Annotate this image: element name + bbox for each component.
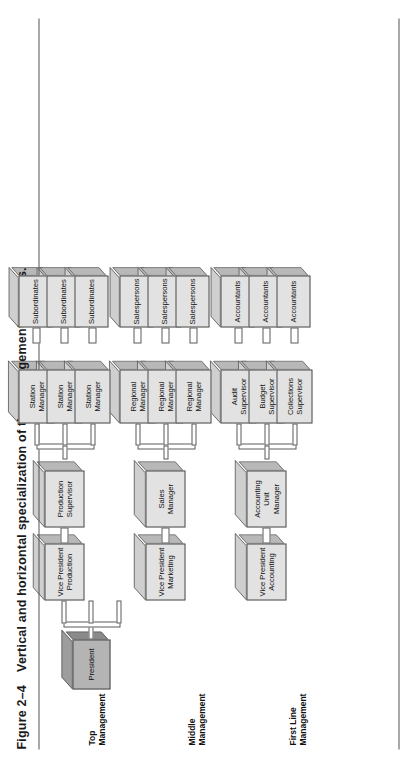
connector-vp-acct-to-accounting-unit-manager [262,527,270,543]
connector-acct-bus-stub [264,445,269,459]
connector-acct-to-collections [292,423,297,445]
connector-budget-to-accountants [262,327,270,343]
connector-bus-to-vp-mktg [88,600,93,623]
tier-label-first-line-management: First Line Management [287,693,307,745]
connector-sales-to-regional-2 [163,423,168,445]
connector-vp-mktg-to-sales-manager [161,527,169,543]
node-accounting-unit-manager[interactable]: Accounting Unit Manager [246,470,286,527]
connector-bus-to-vp-acct [116,600,121,623]
node-collections-supervisor-label: Collections Supervisor [285,377,303,414]
connector-prod-to-station-2 [62,423,67,445]
node-station-manager-3[interactable]: Station Manager [74,369,110,423]
connector-station-1-to-subordinates [32,327,40,343]
connector-bus-to-vp-prod [61,600,66,623]
node-accountants-1-label: Accountants [232,280,241,322]
connector-acct-to-budget [264,423,269,445]
node-salespersons-1-label: Salespersons [131,278,140,324]
connector-sales-to-regional-3 [191,423,196,445]
node-accounting-unit-manager-label: Accounting Unit Manager [252,472,279,525]
node-vp-accounting[interactable]: Vice President Accounting [246,543,286,600]
connector-station-3-to-subordinates [88,327,96,343]
connector-vp-prod-to-prod-supervisor [60,527,68,543]
node-station-manager-1-label: Station Manager [27,381,45,411]
node-subordinates-3[interactable]: Subordinates [74,275,108,327]
connector-prod-to-station-3 [90,423,95,445]
node-sales-manager[interactable]: Sales Manager [145,470,185,527]
node-station-manager-2-label: Station Manager [55,381,73,411]
node-subordinates-1-label: Subordinates [30,279,39,324]
node-president-label: President [86,648,95,680]
node-collections-supervisor[interactable]: Collections Supervisor [276,369,312,423]
connector-prod-to-station-1 [34,423,39,445]
node-production-supervisor-label: Production Supervisor [55,480,73,516]
node-president[interactable]: President [72,639,110,689]
node-vp-marketing-label: Vice President Marketing [156,547,174,596]
connector-regional-2-to-salespersons [161,327,169,343]
node-budget-supervisor-label: Budget Supervisor [257,378,275,414]
node-production-supervisor[interactable]: Production Supervisor [44,470,84,527]
connector-collections-to-accountants [290,327,298,343]
node-salespersons-2-label: Salespersons [159,278,168,324]
node-accountants-2-label: Accountants [260,280,269,322]
node-subordinates-2-label: Subordinates [58,279,67,324]
node-audit-supervisor-label: Audit Supervisor [229,378,247,414]
node-regional-manager-3[interactable]: Regional Manager [175,369,211,423]
connector-station-2-to-subordinates [60,327,68,343]
node-regional-manager-3-label: Regional Manager [184,381,202,411]
node-salespersons-3-label: Salespersons [187,278,196,324]
node-salespersons-3[interactable]: Salespersons [175,275,209,327]
node-accountants-3-label: Accountants [288,280,297,322]
node-regional-manager-1-label: Regional Manager [128,381,146,411]
node-vp-accounting-label: Vice President Accounting [257,547,275,596]
divider-bottom [398,18,399,749]
connector-regional-1-to-salespersons [133,327,141,343]
node-regional-manager-2-label: Regional Manager [156,381,174,411]
node-sales-manager-label: Sales Manager [156,484,174,514]
node-accountants-3[interactable]: Accountants [276,275,310,327]
connector-audit-to-accountants [234,327,242,343]
node-vp-production[interactable]: Vice President Production [44,543,84,600]
connector-sales-to-regional-1 [135,423,140,445]
connector-prod-bus-stub [62,445,67,459]
node-subordinates-3-label: Subordinates [86,279,95,324]
figure-caption: Figure 2–4Vertical and horizontal specia… [14,267,28,749]
node-vp-production-label: Vice President Production [55,547,73,596]
tier-label-top-management: Top Management [86,693,106,745]
connector-sales-bus-stub [163,445,168,459]
connector-acct-to-audit [236,423,241,445]
figure-number: Figure 2–4 [14,684,28,749]
figure-canvas: Figure 2–4Vertical and horizontal specia… [0,0,407,767]
tier-label-middle-management: Middle Management [186,693,206,745]
connector-regional-3-to-salespersons [189,327,197,343]
node-station-manager-3-label: Station Manager [83,381,101,411]
node-vp-marketing[interactable]: Vice President Marketing [145,543,185,600]
